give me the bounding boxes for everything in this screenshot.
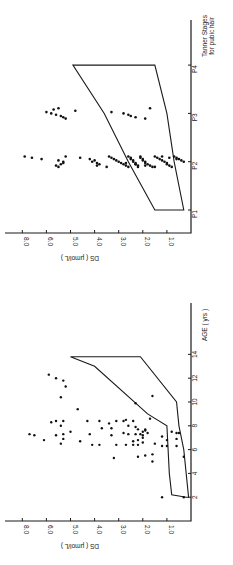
ds-tick-label: 4.0 — [96, 525, 103, 534]
data-point — [132, 444, 134, 446]
bottom-x-axis-label: AGE ( yrs ) — [201, 309, 209, 341]
ds-tick-label: 1.0 — [168, 237, 175, 246]
data-point — [161, 435, 163, 437]
data-point — [137, 439, 139, 441]
data-point — [105, 166, 108, 169]
data-point — [62, 379, 64, 381]
data-point — [50, 421, 52, 423]
data-point — [161, 159, 164, 162]
data-point — [62, 420, 64, 422]
data-point — [127, 425, 129, 427]
ds-tick-label: 4.0 — [96, 237, 103, 246]
data-point — [60, 396, 62, 398]
data-point — [79, 440, 81, 442]
data-point — [146, 432, 148, 434]
data-point — [166, 445, 168, 447]
data-point — [166, 163, 169, 166]
data-point — [55, 164, 58, 167]
data-point — [175, 445, 177, 447]
data-point — [74, 110, 77, 113]
age-tick-label: 4 — [191, 471, 198, 475]
data-point — [98, 420, 100, 422]
bottom-age-ticks: 2468101214 — [188, 350, 198, 499]
data-point — [45, 111, 48, 114]
data-point — [77, 408, 79, 410]
data-point — [161, 445, 163, 447]
data-point — [122, 420, 124, 422]
data-point — [60, 442, 62, 444]
data-point — [134, 163, 137, 166]
data-point — [98, 163, 101, 166]
data-point — [110, 427, 112, 429]
data-point — [50, 112, 53, 115]
data-point — [151, 453, 153, 455]
data-point — [48, 373, 50, 375]
ds-tick-label: 6.0 — [47, 525, 54, 534]
data-point — [31, 157, 34, 160]
data-point — [23, 155, 26, 158]
data-point — [64, 385, 66, 387]
data-point — [183, 496, 185, 498]
data-point — [89, 433, 91, 435]
data-point — [151, 395, 153, 397]
data-point — [115, 444, 117, 446]
data-point — [55, 377, 57, 379]
data-point — [142, 434, 144, 436]
data-point — [183, 456, 185, 458]
age-tick-label: 8 — [191, 424, 198, 428]
top-x-axis-label-line2: for pubic hair — [208, 16, 216, 54]
data-point — [113, 158, 116, 161]
data-point — [168, 157, 171, 160]
data-point — [151, 166, 154, 169]
top-reference-envelope — [73, 65, 184, 210]
age-tick-label: 6 — [191, 447, 198, 451]
bottom-axes — [5, 303, 191, 521]
data-point — [144, 117, 147, 120]
data-point — [149, 164, 152, 167]
data-point — [129, 115, 132, 118]
data-point — [151, 460, 153, 462]
data-point — [161, 496, 163, 498]
ds-tick-label: 2.0 — [144, 237, 151, 246]
data-point — [122, 163, 125, 166]
data-point — [168, 164, 171, 167]
chart-age: 8.06.05.04.03.02.01.0 2468101214 DS ( μm… — [5, 303, 209, 550]
data-point — [62, 433, 64, 435]
ds-tick-label: 6.0 — [47, 237, 54, 246]
data-point — [171, 431, 173, 433]
data-point — [108, 422, 110, 424]
stage-tick-label: P2 — [191, 161, 198, 169]
data-point — [125, 164, 128, 167]
top-axes — [5, 20, 191, 233]
data-point — [129, 158, 132, 161]
data-point — [144, 428, 146, 430]
data-point — [40, 158, 43, 161]
data-point — [142, 437, 144, 439]
data-point — [64, 117, 67, 120]
top-data-points — [23, 107, 185, 168]
data-point — [142, 431, 144, 433]
top-ds-axis-label: DS ( μmol/L ) — [61, 254, 99, 262]
data-point — [146, 163, 149, 166]
data-point — [180, 159, 183, 162]
data-point — [98, 444, 100, 446]
data-point — [122, 112, 125, 115]
data-point — [60, 425, 62, 427]
data-point — [144, 162, 147, 165]
data-point — [86, 420, 88, 422]
data-point — [115, 159, 118, 162]
ds-tick-label: 3.0 — [120, 525, 127, 534]
bottom-data-points — [28, 373, 185, 498]
ds-tick-label: 5.0 — [72, 525, 79, 534]
data-point — [120, 162, 123, 165]
age-tick-label: 10 — [191, 398, 198, 406]
data-point — [137, 444, 139, 446]
data-point — [158, 158, 161, 161]
ds-tick-label: 1.0 — [168, 525, 175, 534]
data-point — [55, 434, 57, 436]
data-point — [33, 434, 35, 436]
data-point — [144, 164, 147, 167]
data-point — [154, 166, 157, 169]
age-tick-label: 2 — [191, 495, 198, 499]
data-point — [132, 420, 134, 422]
